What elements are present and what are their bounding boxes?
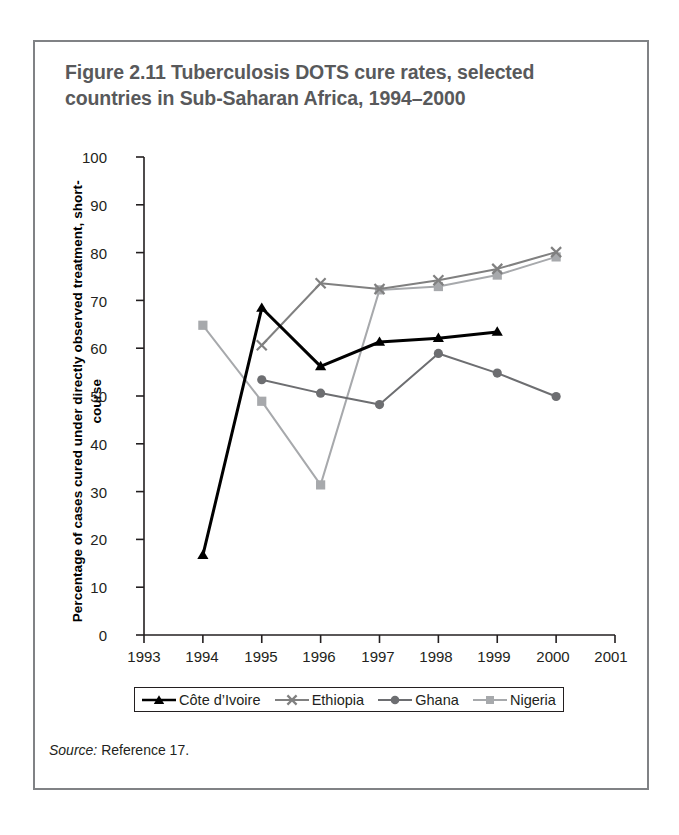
- circle-marker-icon: [316, 389, 325, 398]
- series-ghana: [257, 349, 561, 409]
- legend-item-cote-divoire[interactable]: Côte d’Ivoire: [140, 692, 262, 708]
- legend-item-ethiopia[interactable]: Ethiopia: [273, 692, 366, 708]
- legend-item-nigeria[interactable]: Nigeria: [471, 692, 558, 708]
- legend-item-ghana[interactable]: Ghana: [376, 692, 461, 708]
- square-marker-icon: [316, 480, 325, 489]
- circle-marker-icon: [493, 368, 502, 377]
- series-ethiopia: [257, 247, 561, 350]
- axis-lines: [136, 157, 615, 643]
- series-line: [262, 354, 556, 405]
- figure-panel: Figure 2.11 Tuberculosis DOTS cure rates…: [33, 40, 649, 790]
- series-line: [203, 308, 497, 555]
- chart-plot-area: Percentage of cases cured under directly…: [35, 42, 651, 792]
- legend-label-ghana: Ghana: [415, 692, 459, 708]
- data-series-layer: [197, 247, 561, 559]
- x-marker-icon: [275, 693, 309, 707]
- circle-marker-icon: [434, 349, 443, 358]
- circle-marker-icon: [257, 375, 266, 384]
- chart-canvas: [35, 42, 651, 682]
- square-marker-icon: [473, 693, 507, 707]
- source-note: Source: Reference 17.: [49, 742, 189, 758]
- triangle-marker-icon: [197, 550, 208, 559]
- legend-label-cote-divoire: Côte d’Ivoire: [179, 692, 260, 708]
- chart-legend: Côte d’Ivoire Ethiopia Ghana Nigeria: [134, 687, 564, 712]
- circle-marker-icon: [552, 392, 561, 401]
- source-label: Source:: [49, 742, 97, 758]
- circle-marker-icon: [375, 400, 384, 409]
- legend-label-ethiopia: Ethiopia: [312, 692, 364, 708]
- triangle-marker-icon: [256, 302, 267, 311]
- triangle-marker-icon: [142, 693, 176, 707]
- square-marker-icon: [257, 397, 266, 406]
- square-marker-icon: [198, 321, 207, 330]
- circle-marker-icon: [378, 693, 412, 707]
- series-line: [262, 252, 556, 345]
- source-text: Reference 17.: [97, 742, 189, 758]
- legend-label-nigeria: Nigeria: [510, 692, 556, 708]
- series-c-te-d-ivoire: [197, 302, 503, 559]
